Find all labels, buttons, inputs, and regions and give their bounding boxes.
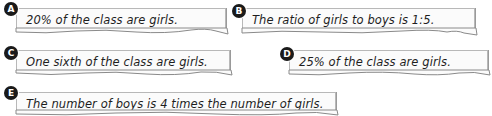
option-badge: A [4,2,18,16]
statement-box: The number of boys is 4 times the number… [16,92,336,112]
option-badge: D [280,47,294,61]
option-badge: E [4,86,18,100]
torn-edge [16,110,338,116]
torn-edge [16,70,232,78]
statement-box: One sixth of the class are girls. [16,50,230,72]
statement-text: 25% of the class are girls. [299,55,451,69]
statement-text: The ratio of girls to boys is 1:5. [252,13,434,27]
statement-box: The ratio of girls to boys is 1:5. [242,8,475,30]
statement-box: 20% of the class are girls. [16,8,226,30]
torn-edge [16,28,228,36]
option-badge: C [4,46,18,60]
statement-box: 25% of the class are girls. [289,50,488,72]
statement-text: 20% of the class are girls. [26,13,178,27]
torn-edge [289,70,490,78]
torn-edge [242,28,477,36]
statement-text: The number of boys is 4 times the number… [26,97,323,111]
option-badge: B [232,4,246,18]
statement-text: One sixth of the class are girls. [26,55,208,69]
